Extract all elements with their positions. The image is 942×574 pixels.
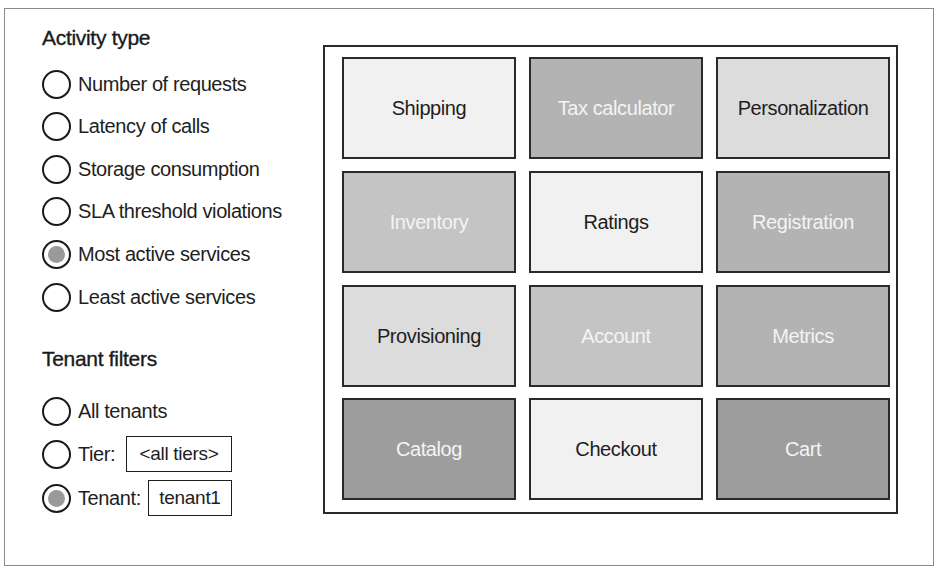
radio-circle-icon[interactable]	[42, 484, 71, 513]
service-tile-tax-calculator[interactable]: Tax calculator	[529, 57, 703, 159]
service-tile-label: Inventory	[390, 211, 469, 234]
radio-label: Least active services	[78, 286, 255, 309]
activity-type-heading: Activity type	[42, 26, 150, 50]
tier-select[interactable]: <all tiers>	[126, 436, 232, 472]
radio-circle-icon[interactable]	[42, 112, 71, 141]
radio-label: Tier:	[78, 443, 115, 466]
service-tile-shipping[interactable]: Shipping	[342, 57, 516, 159]
service-tile-label: Catalog	[396, 438, 462, 461]
service-tile-label: Ratings	[583, 211, 648, 234]
radio-tier[interactable]: Tier:	[42, 439, 115, 469]
radio-most-active-services[interactable]: Most active services	[42, 239, 250, 269]
radio-circle-icon[interactable]	[42, 197, 71, 226]
service-tile-cart[interactable]: Cart	[716, 398, 890, 500]
radio-sla-threshold-violations[interactable]: SLA threshold violations	[42, 196, 282, 226]
radio-label: Tenant:	[78, 487, 141, 510]
radio-storage-consumption[interactable]: Storage consumption	[42, 154, 259, 184]
radio-label: Most active services	[78, 243, 250, 266]
service-tile-catalog[interactable]: Catalog	[342, 398, 516, 500]
service-tile-label: Shipping	[392, 97, 467, 120]
tenant-input[interactable]: tenant1	[148, 480, 232, 516]
radio-tenant[interactable]: Tenant:	[42, 483, 141, 513]
radio-number-of-requests[interactable]: Number of requests	[42, 69, 246, 99]
service-tile-registration[interactable]: Registration	[716, 171, 890, 273]
service-tile-label: Metrics	[772, 325, 834, 348]
service-tile-label: Registration	[752, 211, 854, 234]
radio-circle-icon[interactable]	[42, 70, 71, 99]
radio-label: Latency of calls	[78, 115, 209, 138]
service-tile-label: Account	[581, 325, 650, 348]
radio-circle-icon[interactable]	[42, 283, 71, 312]
radio-circle-icon[interactable]	[42, 155, 71, 184]
radio-label: All tenants	[78, 400, 167, 423]
service-tile-inventory[interactable]: Inventory	[342, 171, 516, 273]
radio-label: SLA threshold violations	[78, 200, 282, 223]
radio-circle-icon[interactable]	[42, 240, 71, 269]
service-tile-label: Checkout	[575, 438, 656, 461]
radio-circle-icon[interactable]	[42, 440, 71, 469]
radio-least-active-services[interactable]: Least active services	[42, 282, 255, 312]
service-tile-provisioning[interactable]: Provisioning	[342, 285, 516, 387]
radio-circle-icon[interactable]	[42, 397, 71, 426]
service-tile-personalization[interactable]: Personalization	[716, 57, 890, 159]
radio-label: Number of requests	[78, 73, 246, 96]
service-tile-metrics[interactable]: Metrics	[716, 285, 890, 387]
service-tile-label: Provisioning	[377, 325, 481, 348]
radio-all-tenants[interactable]: All tenants	[42, 396, 167, 426]
tenant-filters-heading: Tenant filters	[42, 347, 157, 371]
service-tile-ratings[interactable]: Ratings	[529, 171, 703, 273]
service-tile-label: Personalization	[738, 97, 869, 120]
service-tile-account[interactable]: Account	[529, 285, 703, 387]
service-tile-label: Cart	[785, 438, 821, 461]
radio-label: Storage consumption	[78, 158, 259, 181]
service-tile-checkout[interactable]: Checkout	[529, 398, 703, 500]
service-tile-label: Tax calculator	[558, 97, 675, 120]
radio-latency-of-calls[interactable]: Latency of calls	[42, 111, 209, 141]
